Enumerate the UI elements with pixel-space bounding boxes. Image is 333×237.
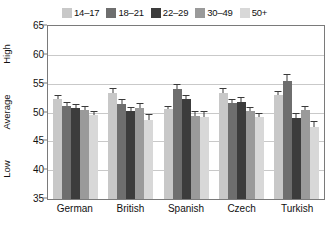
bar-slot [89,26,98,199]
bar-slot [53,26,62,199]
legend-item: 22–29 [151,8,188,18]
bar [237,102,246,199]
bar [164,109,173,199]
bar [228,103,237,199]
bar-slot [200,26,209,199]
error-bar-cap [90,111,97,112]
bar-group [103,26,158,199]
legend-label: 30–49 [207,8,232,18]
error-bar-cap [72,104,79,105]
bar-group [214,26,269,199]
error-bar-cap [311,121,318,122]
bar [53,99,62,199]
x-tick-label: Turkish [269,203,325,214]
legend-swatch-icon [106,8,116,18]
error-bar-cap [81,106,88,107]
error-bar-cap [293,113,300,114]
bar-slot [80,26,89,199]
bar [255,117,264,199]
bar [292,118,301,199]
y-anchor-label: Average [1,94,12,129]
bar [71,108,80,199]
bar [80,110,89,199]
legend-item: 14–17 [62,8,99,18]
bar-slot [310,26,319,199]
bar-group [48,26,103,199]
x-axis: GermanBritishSpanishCzechTurkish [47,203,325,214]
bar-slot [126,26,135,199]
error-bar-cap [145,114,152,115]
legend-label: 50+ [252,8,268,18]
legend-label: 22–29 [163,8,188,18]
bar-slot [173,26,182,199]
error-bar-cap [302,106,309,107]
legend-item: 18–21 [106,8,143,18]
bar [310,127,319,199]
bar-slot [71,26,80,199]
error-bar-cap [54,95,61,96]
error-bar-cap [109,88,116,89]
bar [135,108,144,199]
x-tick-label: German [47,203,103,214]
bar-slot [144,26,153,199]
bar-slot [274,26,283,199]
legend-swatch-icon [195,8,205,18]
error-bar-cap [284,74,291,75]
x-tick-label: British [103,203,159,214]
bar [117,104,126,199]
legend-label: 18–21 [118,8,143,18]
error-bar-cap [183,95,190,96]
bar-slot [191,26,200,199]
error-bar-cap [229,99,236,100]
legend-swatch-icon [151,8,161,18]
error-bar-cap [275,91,282,92]
error-bar-cap [174,84,181,85]
bar-group [158,26,213,199]
error-bar-cap [127,107,134,108]
bar [301,110,310,199]
bars-layer [47,25,325,200]
bar-slot [164,26,173,199]
chart-legend: 14–1718–2122–2930–4950+ [62,6,324,20]
error-bar [287,74,288,81]
error-bar-cap [136,103,143,104]
bar-slot [255,26,264,199]
bar [173,89,182,199]
legend-swatch-icon [62,8,72,18]
bar-slot [228,26,237,199]
error-bar-cap [238,97,245,98]
x-tick-label: Czech [214,203,270,214]
bar [200,117,209,199]
bar [89,115,98,199]
error-bar-cap [165,106,172,107]
bar-slot [182,26,191,199]
legend-label: 14–17 [74,8,99,18]
bar-slot [219,26,228,199]
bar-slot [301,26,310,199]
chart-figure: 14–1718–2122–2930–4950+ Mean T = score 3… [0,0,333,237]
bar [219,93,228,199]
bar [126,111,135,199]
bar-slot [246,26,255,199]
bar-slot [62,26,71,199]
bar-slot [108,26,117,199]
bar-slot [135,26,144,199]
error-bar-cap [63,102,70,103]
error-bar-cap [220,88,227,89]
x-tick-label: Spanish [158,203,214,214]
legend-item: 30–49 [195,8,232,18]
legend-swatch-icon [240,8,250,18]
error-bar-cap [247,107,254,108]
bar [274,95,283,199]
error-bar-cap [192,111,199,112]
bar [182,99,191,199]
legend-item: 50+ [240,8,268,18]
error-bar-cap [201,111,208,112]
bar [62,106,71,199]
bar [283,81,292,199]
bar [108,93,117,199]
bar-slot [283,26,292,199]
bar [144,120,153,199]
bar-slot [117,26,126,199]
error-bar-cap [256,113,263,114]
